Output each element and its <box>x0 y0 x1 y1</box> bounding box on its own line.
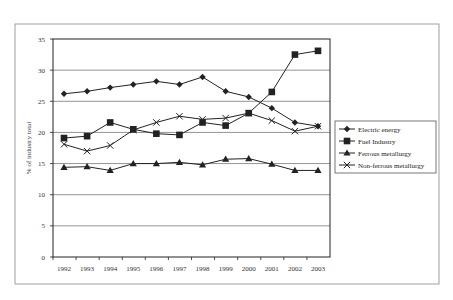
legend-label: Fuel Industry <box>358 138 396 146</box>
legend-label: Non-ferrous metallurgy <box>358 162 425 170</box>
x-tick-label: 2000 <box>242 265 257 273</box>
data-point <box>107 119 114 126</box>
y-tick-label: 0 <box>42 254 46 262</box>
data-point <box>315 48 322 55</box>
x-tick-label: 2002 <box>288 265 303 273</box>
x-tick-label: 2001 <box>265 265 280 273</box>
legend-label: Electric energy <box>358 126 401 134</box>
x-tick-label: 1994 <box>103 265 118 273</box>
x-tick-label: 1996 <box>149 265 164 273</box>
y-tick-label: 35 <box>38 36 46 44</box>
y-tick-label: 25 <box>38 98 46 106</box>
legend-item: Fuel Industry <box>339 138 396 146</box>
x-tick-label: 2003 <box>311 265 326 273</box>
x-tick-label: 1999 <box>219 265 234 273</box>
data-point <box>199 119 206 126</box>
y-tick-label: 30 <box>38 67 46 75</box>
data-point <box>153 130 160 137</box>
legend-marker <box>344 138 351 145</box>
legend: Electric energyFuel IndustryFerrous meta… <box>335 121 436 173</box>
y-tick-label: 15 <box>38 160 46 168</box>
legend-label: Ferrous metallurgy <box>358 150 412 158</box>
y-axis-label: % of industry total <box>25 122 33 174</box>
y-tick-label: 20 <box>38 129 46 137</box>
x-tick-label: 1998 <box>196 265 211 273</box>
data-point <box>176 132 183 139</box>
x-tick-label: 1992 <box>57 265 72 273</box>
line-chart: 05101520253035 1992199319941995199619971… <box>0 0 453 300</box>
data-point <box>292 51 299 58</box>
data-point <box>269 89 276 96</box>
y-tick-label: 5 <box>42 222 46 230</box>
x-tick-label: 1995 <box>126 265 141 273</box>
y-tick-label: 10 <box>38 191 46 199</box>
data-point <box>222 122 229 129</box>
data-point <box>84 133 91 140</box>
x-tick-label: 1997 <box>172 265 187 273</box>
x-tick-label: 1993 <box>80 265 95 273</box>
data-point <box>61 135 68 142</box>
